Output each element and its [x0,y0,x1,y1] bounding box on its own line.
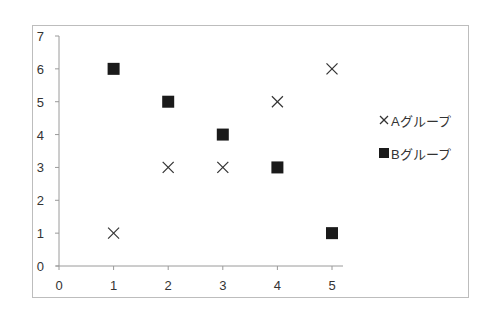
square-icon [378,147,390,159]
square-marker [326,227,338,239]
x-tick-label: 2 [165,278,172,293]
x-tick-label: 0 [55,278,62,293]
y-tick-label: 6 [37,62,44,77]
x-marker [108,228,119,239]
tick-labels: 01234567012345 [37,29,336,293]
y-tick-label: 0 [37,259,44,274]
y-tick-label: 2 [37,193,44,208]
legend-item-a: Aグループ [378,110,451,130]
y-tick-label: 7 [37,29,44,44]
legend-item-b: Bグループ [378,143,451,163]
legend-label-a: Aグループ [391,111,451,130]
square-marker [217,129,229,141]
x-marker [272,96,283,107]
x-tick-label: 3 [219,278,226,293]
x-tick-label: 5 [328,278,335,293]
legend: Aグループ Bグループ [378,110,451,176]
x-tick-label: 4 [274,278,281,293]
x-tick-label: 1 [110,278,117,293]
y-tick-label: 1 [37,226,44,241]
x-marker [217,162,228,173]
square-marker [108,63,120,75]
y-tick-label: 5 [37,95,44,110]
x-mark-icon [378,114,390,126]
x-marker [163,162,174,173]
legend-label-b: Bグループ [391,144,451,163]
square-marker [271,161,283,173]
y-tick-label: 4 [37,128,44,143]
data-markers [108,63,338,239]
y-tick-label: 3 [37,160,44,175]
x-marker [327,63,338,74]
axes [55,36,343,270]
square-marker [162,96,174,108]
